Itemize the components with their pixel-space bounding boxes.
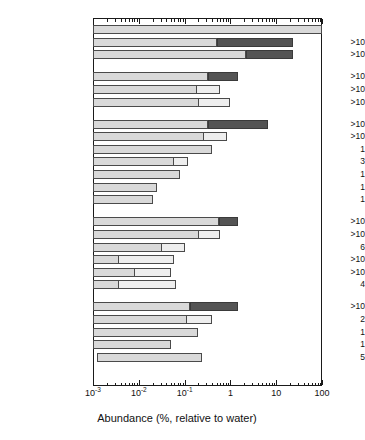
range-bar [93,280,176,289]
axis-tick-minor [290,19,291,22]
axis-tick-major [276,380,277,385]
axis-tick-minor [320,19,321,22]
axis-tick-minor [107,383,108,386]
axis-tick-minor [153,383,154,386]
axis-tick-minor [171,19,172,22]
axis-tick-minor [266,19,267,22]
species-row: HOCH2CH2OH1 [0,144,354,155]
range-bar-upper-segment [161,244,184,251]
range-bar [93,38,217,47]
axis-tick-minor [171,383,172,386]
axis-tick-minor [315,383,316,386]
species-row: H2CO>10 [0,131,354,142]
comet-count-value: >10 [325,119,365,130]
axis-tick-minor [217,19,218,22]
species-row: CH4>10 [0,71,354,82]
range-bar [93,157,188,166]
axis-tick-minor [121,383,122,386]
axis-tick-label: 10-2 [131,388,147,398]
range-bar-dark-extension [219,217,239,226]
axis-tick-minor [228,19,229,22]
axis-tick-minor [312,383,313,386]
axis-tick-minor [308,383,309,386]
axis-tick-minor [166,19,167,22]
range-bar-dark-extension [190,302,239,311]
axis-tick-minor [272,19,273,22]
species-row: C2H6>10 [0,97,354,108]
axis-tick-minor [183,383,184,386]
comet-count-value: >10 [325,131,365,142]
species-row: SO21 [0,327,354,338]
species-row: HNCO6 [0,242,354,253]
species-row: CO2>10 [0,49,354,60]
range-bar-upper-segment [173,158,188,165]
axis-tick-minor [125,19,126,22]
range-bar [93,315,212,324]
axis-tick-minor [298,383,299,386]
axis-tick-minor [244,19,245,22]
species-row: S25 [0,352,354,363]
range-bar-upper-segment [186,316,211,323]
axis-tick-major [322,380,323,385]
axis-tick-minor [107,19,108,22]
axis-tick-label: 10 [271,388,281,398]
axis-tick-minor [198,383,199,386]
comet-count-value: >10 [325,254,365,265]
axis-tick-minor [304,383,305,386]
comet-count-value: >10 [325,71,365,82]
range-bar [93,217,219,226]
axis-tick-label: 1 [228,388,233,398]
axis-tick-minor [121,19,122,22]
range-bar [93,72,208,81]
range-bar [93,50,246,59]
axis-tick-minor [226,19,227,22]
range-bar [93,98,230,107]
axis-tick-minor [198,19,199,22]
axis-tick-minor [269,383,270,386]
axis-tick-minor [290,383,291,386]
axis-tick-minor [137,19,138,22]
comet-count-value: >10 [325,216,365,227]
comet-count-value: 1 [325,339,365,350]
range-bar [93,183,157,192]
range-bar [93,170,180,179]
comet-count-value: 3 [325,156,365,167]
comet-count-value: >10 [325,229,365,240]
axis-tick-minor [161,383,162,386]
axis-tick-label: 10-3 [85,388,101,398]
range-bar-upper-segment [196,86,219,93]
comet-count-value: 1 [325,194,365,205]
species-row: C2H2>10 [0,84,354,95]
axis-tick-minor [274,19,275,22]
axis-tick-minor [320,383,321,386]
axis-tick-minor [166,383,167,386]
comet-count-value: 2 [325,314,365,325]
axis-tick-minor [312,19,313,22]
axis-tick-minor [129,19,130,22]
species-row: NH2CHO1 [0,194,354,205]
axis-tick-major [139,380,140,385]
axis-tick-minor [132,383,133,386]
axis-tick-minor [223,383,224,386]
range-bar [93,328,198,337]
axis-tick-minor [134,383,135,386]
range-bar [93,302,190,311]
axis-tick-minor [183,19,184,22]
axis-tick-minor [217,383,218,386]
axis-tick-minor [223,19,224,22]
axis-tick-minor [258,383,259,386]
axis-tick-major [185,380,186,385]
range-bar [93,145,212,154]
axis-tick-minor [174,19,175,22]
range-bar [93,243,185,252]
range-bar-upper-segment [203,133,226,140]
range-bar [93,25,322,34]
axis-tick-minor [308,19,309,22]
species-row: H2CS1 [0,339,354,350]
axis-tick-major [230,380,231,385]
range-bar-upper-segment [198,99,229,106]
species-row: HCN>10 [0,229,354,240]
species-row: HNC>10 [0,254,354,265]
axis-tick-minor [206,19,207,22]
